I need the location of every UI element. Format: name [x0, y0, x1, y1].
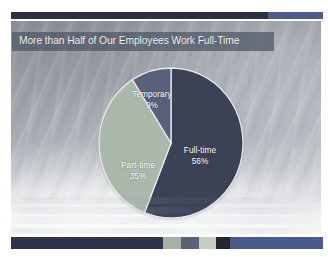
- bottom-accent-segment-3: [181, 237, 199, 249]
- bottom-accent-segment-2: [163, 237, 181, 249]
- top-accent-bar: [11, 12, 323, 19]
- pie-chart-graphic: [99, 68, 243, 218]
- scan-artifact: [0, 250, 328, 257]
- slide-title-band: More than Half of Our Employees Work Ful…: [12, 32, 274, 51]
- page-margin-left: [0, 0, 11, 257]
- page-margin-right: [323, 0, 328, 257]
- scan-artifact: [0, 2, 328, 9]
- bottom-accent-segment-4: [199, 237, 216, 249]
- page-margin-bottom: [0, 249, 328, 257]
- slide-body: More than Half of Our Employees Work Ful…: [11, 21, 321, 234]
- top-accent-segment-blue: [268, 12, 323, 19]
- pie-chart: Full-time 56% Part-time 35% Temporary 9%: [99, 68, 243, 218]
- bottom-accent-segment-6: [230, 237, 323, 249]
- slide-canvas: More than Half of Our Employees Work Ful…: [0, 0, 328, 257]
- bottom-accent-segment-1: [11, 237, 163, 249]
- top-accent-segment-dark: [11, 12, 268, 19]
- page-title: More than Half of Our Employees Work Ful…: [12, 36, 239, 46]
- bottom-accent-segment-5: [216, 237, 230, 249]
- bottom-accent-bar: [11, 237, 323, 249]
- page-margin-top: [0, 0, 328, 12]
